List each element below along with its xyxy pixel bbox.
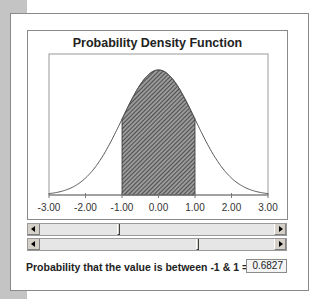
upper-bound-slider[interactable] [27,238,287,251]
left-arrow-icon [31,241,35,247]
x-tick-label: 0.00 [139,202,179,213]
lower-slider-thumb[interactable] [117,224,120,235]
pdf-plot [0,0,324,299]
x-tick-label: -3.00 [29,202,69,213]
x-tick-label: -2.00 [66,202,106,213]
probability-label: Probability that the value is between -1… [26,261,248,273]
x-tick-label: 1.00 [175,202,215,213]
probability-value: 0.6827 [246,259,287,273]
right-arrow-icon [279,226,283,232]
upper-slider-left-button[interactable] [28,239,40,250]
x-tick-label: -1.00 [102,202,142,213]
x-tick-label: 3.00 [248,202,288,213]
upper-slider-right-button[interactable] [274,239,286,250]
lower-bound-slider[interactable] [27,223,287,236]
lower-slider-right-button[interactable] [274,224,286,235]
lower-slider-left-button[interactable] [28,224,40,235]
x-tick-label: 2.00 [212,202,252,213]
upper-slider-thumb[interactable] [196,239,199,250]
right-arrow-icon [279,241,283,247]
left-arrow-icon [31,226,35,232]
